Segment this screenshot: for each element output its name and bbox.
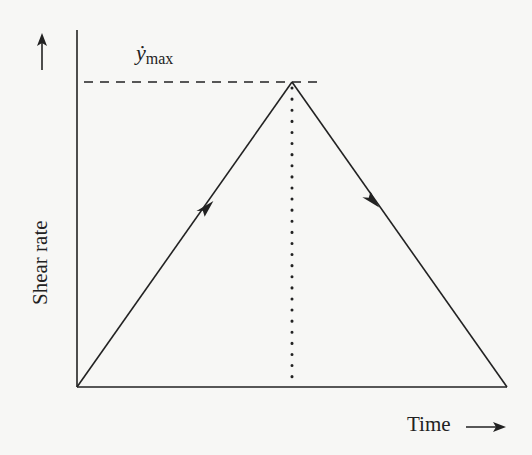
peak-symbol: ẏ	[136, 40, 146, 65]
x-axis-label: Time	[407, 412, 451, 437]
ramp-up-line	[77, 82, 292, 387]
peak-label: ẏmax	[136, 40, 173, 68]
diagram-graphics	[0, 0, 532, 455]
ramp-down-line	[292, 82, 507, 387]
diagram-canvas: Shear rate Time ẏmax	[0, 0, 532, 455]
peak-subscript: max	[146, 50, 174, 67]
y-axis-label: Shear rate	[28, 220, 53, 305]
arrow-down-icon	[362, 192, 381, 212]
